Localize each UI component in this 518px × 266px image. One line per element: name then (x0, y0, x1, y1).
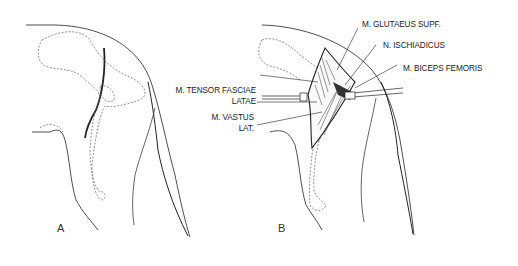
panel-a-drawing (26, 25, 190, 237)
label-tensor-fasciae-line2: LATAE (232, 97, 256, 106)
anatomical-diagram (0, 0, 518, 266)
label-glutaeus-supf: M. GLUTAEUS SUPF. (362, 20, 441, 29)
label-vastus-lat-line2: LAT. (239, 124, 254, 133)
label-vastus-lat-line1: M. VASTUS (211, 113, 254, 122)
label-tensor-fasciae-line1: M. TENSOR FASCIAE (176, 86, 257, 95)
panel-label-a: A (57, 222, 64, 234)
label-n-ischiadicus: N. ISCHIADICUS (383, 41, 445, 50)
label-biceps-femoris: M. BICEPS FEMORIS (403, 64, 482, 73)
panel-b-drawing (257, 25, 414, 235)
panel-label-b: B (278, 222, 285, 234)
